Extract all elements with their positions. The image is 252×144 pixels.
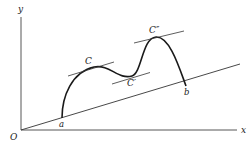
point-a-label: a bbox=[59, 119, 64, 129]
y-axis-label: y bbox=[17, 4, 24, 14]
origin-label: O bbox=[10, 132, 18, 142]
chord-line bbox=[21, 64, 240, 130]
point-b-label: b bbox=[184, 87, 189, 97]
point-c-prime-label: C′ bbox=[127, 78, 136, 88]
point-c-double-prime-label: C″ bbox=[149, 25, 160, 35]
x-axis-label: x bbox=[241, 125, 246, 135]
diagram-figure: y x O a b C C′ C″ bbox=[0, 0, 252, 144]
point-c-label: C bbox=[85, 56, 92, 66]
curve bbox=[62, 37, 186, 118]
